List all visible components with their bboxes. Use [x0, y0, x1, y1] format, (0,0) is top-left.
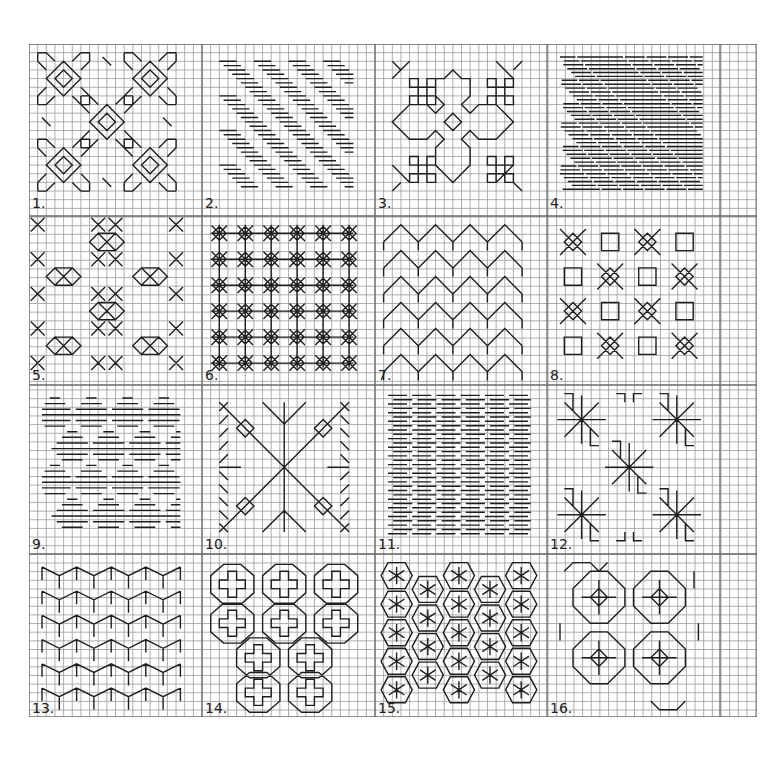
- stitch-patterns: [29, 44, 757, 717]
- panel-label-12: 12.: [550, 537, 572, 551]
- panel-label-8: 8.: [550, 368, 563, 382]
- pattern-stacked-dash-diamonds: [42, 398, 180, 527]
- pattern-dense-diagonal-dashes: [560, 57, 703, 189]
- panel-label-10: 10.: [205, 537, 227, 551]
- pattern-zigzag-steps: [384, 225, 522, 381]
- panel-label-7: 7.: [378, 368, 391, 382]
- pattern-chevron-rows: [42, 567, 180, 710]
- pattern-octagon-rings: [560, 563, 698, 710]
- pattern-diamond-arrow-motifs: [38, 53, 176, 191]
- pattern-hexagon-asterisks: [381, 563, 537, 703]
- panel-label-1: 1.: [32, 196, 45, 210]
- panel-label-2: 2.: [205, 196, 218, 210]
- panel-label-16: 16.: [550, 701, 572, 715]
- pattern-crossed-grid-stars: [211, 225, 357, 371]
- panel-label-5: 5.: [32, 368, 45, 382]
- pattern-star-and-block-medallion: [392, 61, 522, 191]
- panel-label-14: 14.: [205, 701, 227, 715]
- pattern-diagonal-dash-bands: [219, 61, 353, 186]
- pattern-fan-flower-rosettes: [557, 394, 701, 541]
- graph-paper-sheet: 1.2.3.4.5.6.7.8.9.10.11.12.13.14.15.16.: [29, 44, 757, 717]
- panel-label-3: 3.: [378, 196, 391, 210]
- panel-label-13: 13.: [32, 701, 54, 715]
- pattern-squares-and-crosses: [560, 229, 698, 359]
- panel-label-9: 9.: [32, 537, 45, 551]
- panel-label-11: 11.: [378, 537, 400, 551]
- panel-label-15: 15.: [378, 701, 400, 715]
- panel-label-4: 4.: [550, 196, 563, 210]
- panel-label-6: 6.: [205, 368, 218, 382]
- pattern-horizontal-dash-columns: [388, 395, 531, 533]
- pattern-greek-cross-octagons: [211, 564, 358, 712]
- pattern-linked-diamond-chains: [31, 218, 183, 370]
- pattern-radiating-leaf-star: [219, 402, 349, 532]
